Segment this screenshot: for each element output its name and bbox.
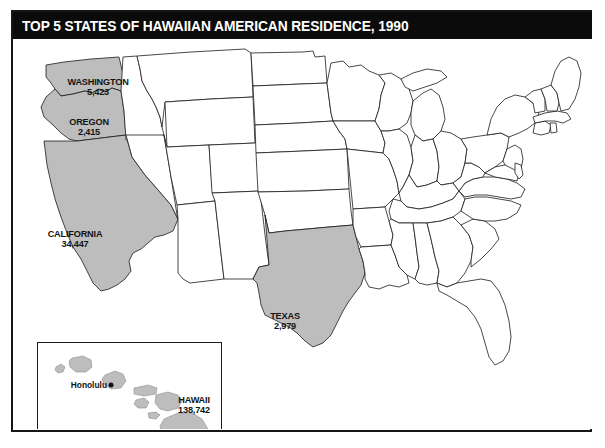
figure-title-bar: TOP 5 STATES OF HAWAIIAN AMERICAN RESIDE… [13, 12, 592, 39]
state-oregon [41, 88, 126, 141]
state-south-dakota [253, 83, 333, 125]
island-hawaii-big [160, 413, 208, 429]
island-molokai [134, 385, 157, 396]
state-nebraska [255, 121, 347, 153]
hawaii-inset-frame: Honolulu HAWAII 138,742 [37, 342, 222, 429]
state-arkansas [353, 207, 393, 247]
state-north-dakota [251, 51, 327, 86]
honolulu-marker [109, 383, 114, 388]
state-north-carolina [461, 197, 521, 221]
city-label-honolulu: Honolulu [71, 380, 107, 390]
page-title: TOP 5 STATES OF HAWAIIAN AMERICAN RESIDE… [22, 18, 408, 34]
island-kahoolawe [148, 412, 160, 419]
state-wyoming [165, 97, 255, 147]
state-florida [437, 279, 511, 365]
state-michigan-upper [401, 69, 447, 91]
island-lanai [134, 398, 149, 408]
island-maui [155, 392, 182, 411]
state-minnesota [327, 61, 385, 121]
state-rhode-island [550, 123, 557, 133]
hawaii-islands-map [38, 343, 220, 429]
island-kauai [69, 356, 92, 372]
island-niihau [55, 364, 65, 373]
state-texas [253, 215, 365, 347]
state-kansas [256, 149, 349, 192]
figure-root: TOP 5 STATES OF HAWAIIAN AMERICAN RESIDE… [0, 0, 605, 448]
us-map-canvas: Honolulu HAWAII 138,742 WASHINGTON 5,423… [13, 39, 592, 429]
